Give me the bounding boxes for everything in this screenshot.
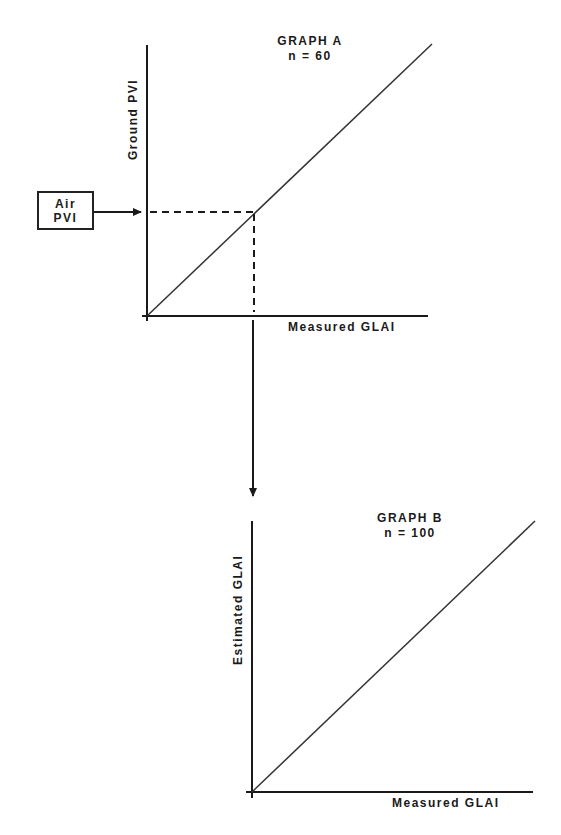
graph-a-n-label: n = 60 [250,49,370,64]
diagram-canvas [0,0,561,835]
graph-b-y-axis-label: Estimated GLAI [231,555,245,665]
air-pvi-box: Air PVI [37,191,94,230]
air-pvi-box-line1: Air [55,197,76,211]
air-pvi-box-line2: PVI [54,211,78,225]
graph-a-y-axis-label: Ground PVI [126,79,140,160]
graph-b-line [252,521,535,792]
graph-a-title: GRAPH A n = 60 [250,34,370,64]
graph-b-title: GRAPH B n = 100 [350,511,470,541]
graph-a-line [147,44,432,316]
graph-a-x-axis-label: Measured GLAI [288,320,396,334]
graph-b-n-label: n = 100 [350,526,470,541]
graph-a-title-text: GRAPH A [250,34,370,49]
graph-b-x-axis-label: Measured GLAI [392,796,500,810]
graph-b-title-text: GRAPH B [350,511,470,526]
